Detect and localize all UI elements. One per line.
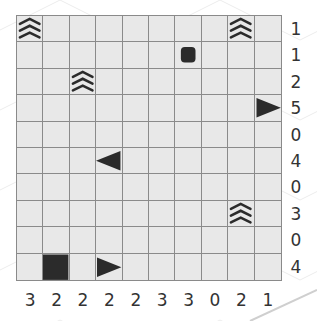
grid-cell-r4-c0[interactable] (17, 122, 43, 148)
grid-cell-r7-c5[interactable] (149, 201, 175, 227)
grid-cell-r5-c4[interactable] (123, 148, 149, 174)
grid-cell-r6-c6[interactable] (175, 174, 201, 200)
grid-cell-r0-c3[interactable] (96, 16, 122, 42)
grid-cell-r2-c1[interactable] (43, 69, 69, 95)
grid-cell-r2-c2[interactable] (70, 69, 96, 95)
grid-cell-r4-c5[interactable] (149, 122, 175, 148)
grid-cell-r9-c5[interactable] (149, 254, 175, 280)
grid-cell-r0-c0[interactable] (17, 16, 43, 42)
grid-cell-r1-c5[interactable] (149, 42, 175, 68)
grid-cell-r8-c3[interactable] (96, 227, 122, 253)
grid-cell-r0-c6[interactable] (175, 16, 201, 42)
grid-cell-r2-c0[interactable] (17, 69, 43, 95)
grid-cell-r3-c1[interactable] (43, 95, 69, 121)
grid-cell-r5-c9[interactable] (255, 148, 281, 174)
grid-cell-r3-c6[interactable] (175, 95, 201, 121)
grid-cell-r4-c7[interactable] (202, 122, 228, 148)
grid-cell-r5-c7[interactable] (202, 148, 228, 174)
grid-cell-r2-c4[interactable] (123, 69, 149, 95)
grid-cell-r9-c3[interactable] (96, 254, 122, 280)
grid-cell-r9-c8[interactable] (228, 254, 254, 280)
grid-cell-r0-c5[interactable] (149, 16, 175, 42)
grid-cell-r6-c1[interactable] (43, 174, 69, 200)
grid-cell-r4-c4[interactable] (123, 122, 149, 148)
grid-cell-r3-c9[interactable] (255, 95, 281, 121)
grid-cell-r6-c9[interactable] (255, 174, 281, 200)
grid-cell-r0-c2[interactable] (70, 16, 96, 42)
grid-cell-r5-c1[interactable] (43, 148, 69, 174)
grid-cell-r2-c5[interactable] (149, 69, 175, 95)
grid-cell-r5-c5[interactable] (149, 148, 175, 174)
grid-cell-r4-c2[interactable] (70, 122, 96, 148)
grid-cell-r9-c1[interactable] (43, 254, 69, 280)
grid-cell-r9-c9[interactable] (255, 254, 281, 280)
grid-cell-r7-c3[interactable] (96, 201, 122, 227)
grid-cell-r9-c0[interactable] (17, 254, 43, 280)
grid-cell-r4-c1[interactable] (43, 122, 69, 148)
grid-cell-r6-c5[interactable] (149, 174, 175, 200)
grid-cell-r8-c2[interactable] (70, 227, 96, 253)
grid-cell-r5-c0[interactable] (17, 148, 43, 174)
grid-cell-r3-c8[interactable] (228, 95, 254, 121)
grid-cell-r8-c9[interactable] (255, 227, 281, 253)
grid-cell-r3-c0[interactable] (17, 95, 43, 121)
grid-cell-r6-c4[interactable] (123, 174, 149, 200)
grid-cell-r4-c8[interactable] (228, 122, 254, 148)
grid-cell-r7-c4[interactable] (123, 201, 149, 227)
grid-cell-r7-c0[interactable] (17, 201, 43, 227)
grid-cell-r2-c3[interactable] (96, 69, 122, 95)
grid-cell-r7-c6[interactable] (175, 201, 201, 227)
grid-cell-r3-c5[interactable] (149, 95, 175, 121)
grid-cell-r8-c6[interactable] (175, 227, 201, 253)
grid-cell-r5-c6[interactable] (175, 148, 201, 174)
grid-cell-r0-c4[interactable] (123, 16, 149, 42)
grid-cell-r2-c8[interactable] (228, 69, 254, 95)
grid-cell-r3-c7[interactable] (202, 95, 228, 121)
grid-cell-r6-c0[interactable] (17, 174, 43, 200)
grid-cell-r7-c8[interactable] (228, 201, 254, 227)
grid-cell-r8-c0[interactable] (17, 227, 43, 253)
grid-cell-r8-c5[interactable] (149, 227, 175, 253)
grid-cell-r9-c6[interactable] (175, 254, 201, 280)
grid-cell-r1-c6[interactable] (175, 42, 201, 68)
grid-cell-r9-c2[interactable] (70, 254, 96, 280)
grid-cell-r3-c4[interactable] (123, 95, 149, 121)
grid-cell-r1-c0[interactable] (17, 42, 43, 68)
grid-cell-r5-c8[interactable] (228, 148, 254, 174)
grid-cell-r0-c7[interactable] (202, 16, 228, 42)
grid-cell-r4-c9[interactable] (255, 122, 281, 148)
grid-cell-r7-c7[interactable] (202, 201, 228, 227)
grid-cell-r8-c7[interactable] (202, 227, 228, 253)
grid-cell-r4-c6[interactable] (175, 122, 201, 148)
grid-cell-r9-c4[interactable] (123, 254, 149, 280)
grid-cell-r1-c7[interactable] (202, 42, 228, 68)
grid-cell-r8-c8[interactable] (228, 227, 254, 253)
grid-cell-r0-c8[interactable] (228, 16, 254, 42)
grid-cell-r1-c3[interactable] (96, 42, 122, 68)
grid-cell-r1-c9[interactable] (255, 42, 281, 68)
grid-cell-r5-c3[interactable] (96, 148, 122, 174)
grid-cell-r8-c1[interactable] (43, 227, 69, 253)
grid-cell-r0-c9[interactable] (255, 16, 281, 42)
grid-cell-r1-c1[interactable] (43, 42, 69, 68)
grid-cell-r7-c2[interactable] (70, 201, 96, 227)
grid-cell-r2-c7[interactable] (202, 69, 228, 95)
grid-cell-r3-c2[interactable] (70, 95, 96, 121)
grid-cell-r3-c3[interactable] (96, 95, 122, 121)
grid-cell-r4-c3[interactable] (96, 122, 122, 148)
grid-cell-r2-c9[interactable] (255, 69, 281, 95)
grid-cell-r6-c3[interactable] (96, 174, 122, 200)
grid-cell-r7-c1[interactable] (43, 201, 69, 227)
grid-cell-r6-c2[interactable] (70, 174, 96, 200)
grid-cell-r1-c4[interactable] (123, 42, 149, 68)
grid-cell-r2-c6[interactable] (175, 69, 201, 95)
grid-cell-r8-c4[interactable] (123, 227, 149, 253)
grid-cell-r5-c2[interactable] (70, 148, 96, 174)
grid-cell-r6-c8[interactable] (228, 174, 254, 200)
grid-cell-r0-c1[interactable] (43, 16, 69, 42)
grid-cell-r1-c2[interactable] (70, 42, 96, 68)
grid-cell-r6-c7[interactable] (202, 174, 228, 200)
grid-cell-r7-c9[interactable] (255, 201, 281, 227)
grid-cell-r9-c7[interactable] (202, 254, 228, 280)
grid-cell-r1-c8[interactable] (228, 42, 254, 68)
